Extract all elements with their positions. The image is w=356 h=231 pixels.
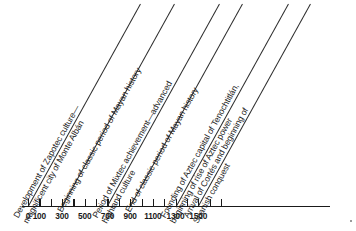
timeline-figure: 0100300500700900110013001500 Development… <box>0 0 356 231</box>
axis-tick <box>85 199 86 206</box>
axis-tick <box>73 199 74 206</box>
event-label-line: Development of Zapotec culture— <box>11 103 83 220</box>
axis-tick <box>153 199 154 206</box>
axis-tick <box>142 199 143 206</box>
axis-tick <box>221 199 222 206</box>
corner-artifact-mark <box>350 220 352 222</box>
axis-tick <box>51 199 52 206</box>
